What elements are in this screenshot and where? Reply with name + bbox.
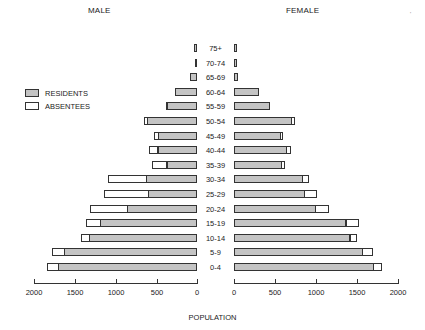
age-group-label: 20-24: [197, 205, 234, 214]
pyramid-row: 45-49: [0, 132, 425, 141]
corner-mark: ': [410, 11, 411, 17]
pyramid-row: 65-69: [0, 73, 425, 82]
female-residents-bar: [234, 234, 350, 242]
pyramid-row: 0-4: [0, 263, 425, 272]
age-group-label: 25-29: [197, 190, 234, 199]
pyramid-row: 35-39: [0, 161, 425, 170]
age-group-label: 60-64: [197, 88, 234, 97]
male-residents-bar: [127, 205, 197, 213]
pyramid-row: 70-74: [0, 59, 425, 68]
female-residents-bar: [234, 117, 292, 125]
female-residents-bar: [234, 205, 316, 213]
x-tick-label: 2000: [383, 288, 413, 297]
age-group-label: 70-74: [197, 59, 234, 68]
male-residents-bar: [89, 234, 197, 242]
age-group-label: 10-14: [197, 234, 234, 243]
female-absentees-bar: [280, 132, 283, 140]
x-tick: [357, 279, 358, 284]
male-residents-bar: [175, 88, 197, 96]
legend-label-absentees: ABSENTEES: [45, 102, 90, 111]
male-absentees-bar: [108, 175, 147, 183]
female-residents-bar: [234, 102, 270, 110]
age-group-label: 15-19: [197, 219, 234, 228]
female-absentees-bar: [346, 219, 360, 227]
age-group-label: 30-34: [197, 175, 234, 184]
female-absentees-bar: [302, 175, 309, 183]
male-residents-bar: [146, 175, 197, 183]
female-residents-bar: [234, 73, 238, 81]
male-absentees-bar: [86, 219, 100, 227]
male-absentees-bar: [152, 161, 168, 169]
x-tick-label: 1500: [60, 288, 90, 297]
male-residents-bar: [190, 73, 197, 81]
pyramid-row: 20-24: [0, 205, 425, 214]
x-tick: [398, 279, 399, 284]
x-tick-label: 1500: [342, 288, 372, 297]
x-tick: [116, 279, 117, 284]
x-tick: [316, 279, 317, 284]
age-group-label: 65-69: [197, 73, 234, 82]
female-residents-bar: [234, 44, 237, 52]
x-tick: [157, 279, 158, 284]
pyramid-row: 10-14: [0, 234, 425, 243]
x-axis-label: POPULATION: [0, 313, 425, 322]
male-absentees-bar: [52, 248, 64, 256]
pyramid-row: 5-9: [0, 248, 425, 257]
age-group-label: 5-9: [197, 248, 234, 257]
x-tick: [234, 279, 235, 284]
x-tick: [197, 279, 198, 284]
female-residents-bar: [234, 190, 305, 198]
male-absentees-bar: [104, 190, 149, 198]
age-group-label: 35-39: [197, 161, 234, 170]
x-tick: [34, 279, 35, 284]
female-residents-bar: [234, 146, 287, 154]
male-absentees-bar: [90, 205, 129, 213]
female-absentees-bar: [304, 190, 317, 198]
pyramid-row: 15-19: [0, 219, 425, 228]
x-tick-label: 0: [219, 288, 249, 297]
age-group-label: 55-59: [197, 102, 234, 111]
x-tick-label: 0: [182, 288, 212, 297]
male-residents-bar: [147, 117, 197, 125]
male-residents-bar: [58, 263, 197, 271]
female-absentees-bar: [362, 248, 373, 256]
age-group-label: 45-49: [197, 132, 234, 141]
male-residents-bar: [194, 44, 197, 52]
male-residents-bar: [100, 219, 197, 227]
female-absentees-bar: [373, 263, 381, 271]
pyramid-row: 75+: [0, 44, 425, 53]
male-residents-bar: [158, 132, 197, 140]
female-residents-bar: [234, 219, 346, 227]
pyramid-row: 50-54: [0, 117, 425, 126]
pyramid-row: 25-29: [0, 190, 425, 199]
female-residents-bar: [234, 88, 259, 96]
age-group-label: 75+: [197, 44, 234, 53]
age-group-label: 50-54: [197, 117, 234, 126]
male-header: MALE: [88, 6, 111, 15]
female-header: FEMALE: [286, 6, 319, 15]
female-absentees-bar: [291, 117, 295, 125]
x-tick-label: 500: [142, 288, 172, 297]
x-tick-label: 1000: [301, 288, 331, 297]
legend-swatch-absentees: [25, 102, 39, 110]
female-residents-bar: [234, 161, 282, 169]
x-tick-label: 1000: [101, 288, 131, 297]
female-absentees-bar: [286, 146, 290, 154]
female-absentees-bar: [350, 234, 357, 242]
legend-label-residents: RESIDENTS: [45, 89, 88, 98]
male-residents-bar: [167, 161, 197, 169]
male-residents-bar: [148, 190, 197, 198]
x-tick: [275, 279, 276, 284]
pyramid-row: 30-34: [0, 175, 425, 184]
male-residents-bar: [64, 248, 197, 256]
male-residents-bar: [158, 146, 197, 154]
female-residents-bar: [234, 132, 281, 140]
male-residents-bar: [167, 102, 197, 110]
pyramid-row: 40-44: [0, 146, 425, 155]
female-absentees-bar: [281, 161, 285, 169]
age-group-label: 0-4: [197, 263, 234, 272]
female-residents-bar: [234, 59, 237, 67]
female-residents-bar: [234, 263, 374, 271]
female-absentees-bar: [315, 205, 329, 213]
male-residents-bar: [195, 59, 198, 67]
